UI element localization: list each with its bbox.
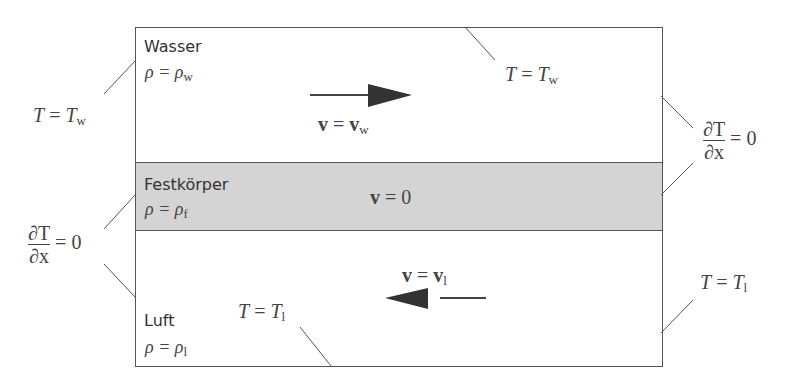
bc-lhs: T (238, 300, 249, 322)
fraction: ∂T∂x (703, 118, 725, 163)
bc-top-water: T = Tw (505, 63, 558, 88)
density-text: ρ = ρ (145, 199, 183, 219)
v-lhs: v (370, 186, 380, 208)
solid-label: Festkörper (144, 175, 228, 194)
bc-sub: l (744, 280, 748, 295)
eq: = (44, 104, 65, 126)
bc-lhs: T (700, 271, 711, 293)
eq: = (711, 271, 732, 293)
fraction: ∂T∂x (28, 222, 50, 267)
denominator: ∂x (28, 245, 50, 267)
v-sub: l (443, 273, 447, 288)
bc-rhs: T (537, 63, 548, 85)
bc-sub: l (282, 309, 286, 324)
water-density: ρ = ρw (145, 62, 193, 85)
bc-rhs: T (65, 104, 76, 126)
v-sub: w (359, 122, 368, 137)
solid-velocity: v = 0 (370, 186, 411, 209)
v-rhs: 0 (401, 186, 411, 208)
v-lhs: v (318, 113, 328, 135)
solid-density: ρ = ρf (145, 199, 188, 222)
air-velocity: v = vl (402, 264, 447, 289)
density-text: ρ = ρ (145, 62, 183, 82)
eq: = (412, 264, 433, 286)
numerator: ∂T (28, 222, 50, 245)
bc-lhs: T (505, 63, 516, 85)
bc-lhs: T (33, 104, 44, 126)
bc-rhs: T (732, 271, 743, 293)
bc-right-air: T = Tl (700, 271, 747, 296)
bc-sub: w (549, 72, 558, 87)
eq: = (249, 300, 270, 322)
bc-right-neumann: ∂T∂x = 0 (703, 118, 756, 163)
bc-rhs: T (270, 300, 281, 322)
density-sub: w (183, 69, 192, 84)
bc-rhs: = 0 (55, 231, 81, 253)
water-velocity: v = vw (318, 113, 369, 138)
denominator: ∂x (703, 141, 725, 163)
v-rhs: v (433, 264, 443, 286)
bc-left-water: T = Tw (33, 104, 86, 129)
water-label: Wasser (144, 37, 202, 56)
eq: = (516, 63, 537, 85)
air-density: ρ = ρl (145, 337, 187, 360)
eq: = (328, 113, 349, 135)
bc-sub: w (77, 113, 86, 128)
bc-rhs: = 0 (730, 127, 756, 149)
eq: = (380, 186, 401, 208)
numerator: ∂T (703, 118, 725, 141)
v-rhs: v (349, 113, 359, 135)
bc-bottom-air: T = Tl (238, 300, 285, 325)
density-text: ρ = ρ (145, 337, 183, 357)
density-sub: f (183, 206, 187, 221)
bc-left-neumann: ∂T∂x = 0 (28, 222, 81, 267)
air-label: Luft (144, 311, 174, 330)
v-lhs: v (402, 264, 412, 286)
density-sub: l (183, 344, 187, 359)
